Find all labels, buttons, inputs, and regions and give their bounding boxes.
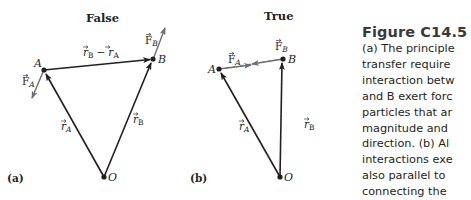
svg-text:FA: FA xyxy=(22,75,35,89)
caption-line: transfer require xyxy=(362,57,471,73)
label-r-b: rB xyxy=(133,113,144,128)
caption-title: Figure C14.5 xyxy=(362,24,471,40)
figure-caption: Figure C14.5 (a) The principle transfer … xyxy=(362,24,471,200)
label-r-b: rB xyxy=(304,118,315,133)
point-a-label: A xyxy=(207,63,216,76)
svg-text:rB: rB xyxy=(304,118,315,132)
vector-r-a-arrow xyxy=(221,73,280,177)
svg-text:rB−rA: rB−rA xyxy=(83,46,119,60)
label-f-b: FB xyxy=(275,39,288,54)
point-b-label: B xyxy=(157,53,166,66)
point-a-dot xyxy=(41,67,46,72)
vector-r-a-arrow xyxy=(46,74,104,177)
point-a-dot xyxy=(216,66,221,71)
svg-text:FB: FB xyxy=(275,40,288,54)
force-f-b-arrow xyxy=(252,59,283,64)
caption-line: (a) The principle xyxy=(362,41,471,57)
label-rb-minus-ra: rB−rA xyxy=(83,46,119,61)
label-f-a: FA xyxy=(22,74,35,89)
panel-a-heading: False xyxy=(86,11,119,25)
svg-text:rA: rA xyxy=(61,120,72,134)
caption-line: interaction betw xyxy=(362,73,471,89)
panel-a-label: (a) xyxy=(7,172,24,184)
point-b-dot xyxy=(150,56,155,61)
panel-a: False A B O rB−rA FA FB xyxy=(7,11,166,184)
vector-r-b-arrow xyxy=(280,63,282,177)
point-a-label: A xyxy=(33,57,42,70)
vector-rb-minus-ra-arrow xyxy=(44,60,150,71)
caption-line: and B exert forc xyxy=(362,89,471,105)
vector-r-b-arrow xyxy=(104,63,151,177)
svg-text:FA: FA xyxy=(228,53,241,67)
caption-line: direction. (b) Al xyxy=(362,136,471,152)
svg-text:FB: FB xyxy=(145,34,158,48)
caption-line: particles that ar xyxy=(362,105,471,121)
point-b-dot xyxy=(280,56,285,61)
panel-b-heading: True xyxy=(264,9,293,23)
point-o-dot xyxy=(101,174,106,179)
caption-line: also parallel to xyxy=(362,168,471,184)
point-o-label: O xyxy=(284,171,293,184)
label-r-a: rA xyxy=(61,120,72,135)
caption-line: magnitude and xyxy=(362,121,471,137)
label-f-b: FB xyxy=(145,33,158,48)
caption-line: connecting the xyxy=(362,184,471,200)
point-b-label: B xyxy=(287,53,296,66)
panel-b-label: (b) xyxy=(190,172,207,184)
panel-b: True A B O FA FB rA xyxy=(190,9,315,184)
point-o-dot xyxy=(277,174,282,179)
point-o-label: O xyxy=(108,171,117,184)
caption-line: interactions exe xyxy=(362,152,471,168)
label-f-a: FA xyxy=(228,52,241,67)
svg-text:rB: rB xyxy=(133,113,144,127)
